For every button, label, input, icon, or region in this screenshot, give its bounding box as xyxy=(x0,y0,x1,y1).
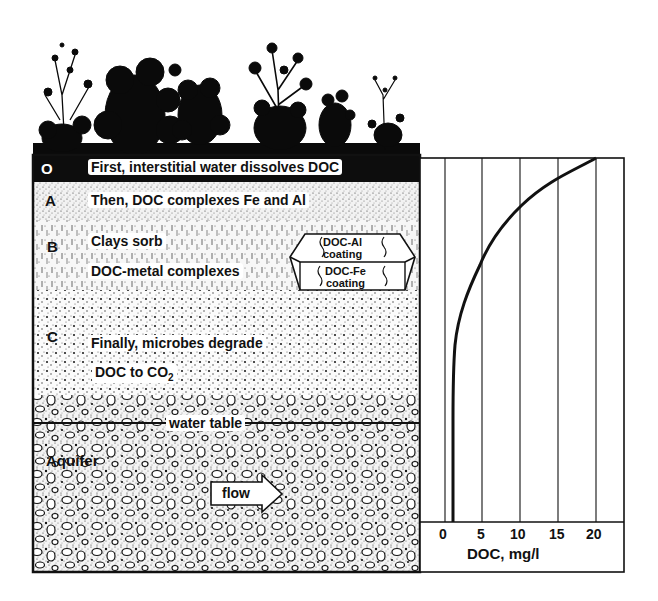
horizon-b-label: B xyxy=(47,238,58,255)
horizon-o-text: First, interstitial water dissolves DOC xyxy=(88,159,342,175)
coating-fe-line2: coating xyxy=(325,277,366,289)
vegetation xyxy=(33,43,420,157)
horizon-a-label: A xyxy=(45,192,56,209)
figure-canvas xyxy=(0,0,658,601)
coating-fe-line1: DOC-Fe xyxy=(325,265,366,277)
x-tick-10: 10 xyxy=(510,526,526,542)
horizon-c-text-2: DOC to CO2 xyxy=(92,364,177,383)
aquifer-label: Aquifer xyxy=(46,452,99,469)
horizon-c-label: C xyxy=(47,328,58,345)
x-tick-15: 15 xyxy=(549,526,565,542)
horizon-b-text-2: DOC-metal complexes xyxy=(88,263,243,279)
x-tick-0: 0 xyxy=(439,526,447,542)
x-tick-5: 5 xyxy=(477,526,485,542)
flow-label: flow xyxy=(222,485,250,501)
horizon-c-text-1: Finally, microbes degrade xyxy=(88,335,266,351)
coating-al-label: DOC-Al coating xyxy=(323,236,362,260)
horizon-b-text-1: Clays sorb xyxy=(88,233,166,249)
horizon-o-label: O xyxy=(41,160,53,177)
coating-al-line1: DOC-Al xyxy=(323,236,362,248)
doc-chart xyxy=(420,158,624,572)
coating-fe-label: DOC-Fe coating xyxy=(325,265,366,289)
x-tick-20: 20 xyxy=(586,526,602,542)
co2-subscript: 2 xyxy=(168,372,174,383)
coating-al-line2: coating xyxy=(323,248,362,260)
horizon-a-text: Then, DOC complexes Fe and Al xyxy=(88,192,309,208)
horizon-c-text-2-main: DOC to CO xyxy=(95,364,168,380)
water-table-label: water table xyxy=(166,415,245,431)
chart-frame xyxy=(420,158,624,572)
x-axis-label: DOC, mg/l xyxy=(467,545,540,562)
soil-profile xyxy=(33,155,420,572)
